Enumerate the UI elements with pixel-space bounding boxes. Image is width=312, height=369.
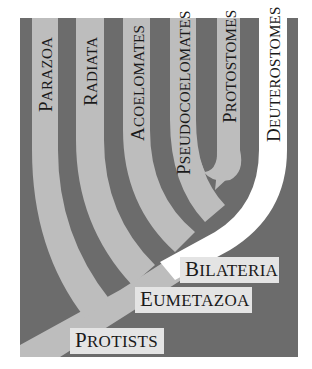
radiata-label-rest: ADIATA: [84, 37, 100, 93]
parazoa-label-initial: P: [35, 101, 56, 112]
acoelomates-label-initial: A: [127, 127, 148, 141]
bilateria-label-initial: B: [185, 257, 199, 281]
bilateria-label-rest: ILATERIA: [199, 261, 278, 280]
parazoa-label: PARAZOA: [36, 37, 55, 112]
acoelomates-label: ACOELOMATES: [128, 25, 147, 141]
eumetazoa-label-initial: E: [140, 287, 153, 311]
phylogeny-diagram: PARAZOA RADIATA ACOELOMATES PSEUDOCOELOM…: [0, 0, 312, 369]
pseudocoelomates-label-rest: SEUDOCOELOMATES: [177, 10, 193, 164]
radiata-label: RADIATA: [81, 37, 100, 106]
protostomes-label: PROTOSTOMES: [220, 10, 239, 123]
acoelomates-label-rest: COELOMATES: [131, 25, 147, 127]
pseudocoelomates-label: PSEUDOCOELOMATES: [174, 10, 193, 175]
parazoa-label-rest: ARAZOA: [39, 37, 55, 101]
protostomes-label-initial: P: [219, 112, 240, 123]
deuterostomes-label-rest: EUTEROSTOMES: [267, 6, 283, 128]
deuterostomes-label-initial: D: [263, 128, 284, 142]
protists-label: PROTISTS: [70, 328, 164, 354]
protostomes-label-rest: ROTOSTOMES: [223, 10, 239, 112]
protists-label-rest: ROTISTS: [87, 332, 158, 351]
bilateria-label: BILATERIA: [180, 257, 279, 283]
deuterostomes-label: DEUTEROSTOMES: [264, 6, 283, 142]
pseudocoelomates-label-initial: P: [173, 164, 194, 175]
radiata-label-initial: R: [80, 93, 101, 106]
eumetazoa-label-rest: UMETAZOA: [153, 291, 249, 310]
protists-label-initial: P: [75, 328, 87, 352]
eumetazoa-label: EUMETAZOA: [135, 287, 252, 313]
